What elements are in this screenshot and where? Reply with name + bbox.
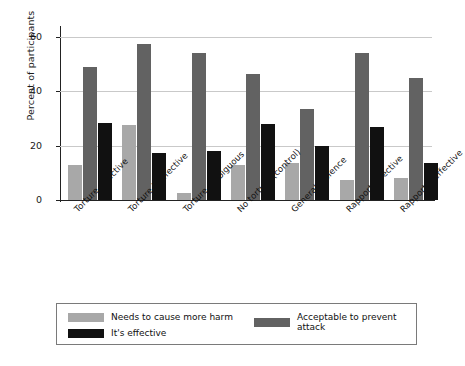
bar-torture-ambiguous-acceptable-to-prevent-attack [192,53,206,200]
y-tick-label-60: 60 [2,32,42,42]
bar-rapport-effective-it-s-effective [370,127,384,200]
y-tick-mark-60 [56,37,60,38]
bar-no-torture-control-needs-to-cause-more-harm [231,165,245,200]
legend-item-its-effective: It's effective [68,328,166,338]
y-tick-label-40: 40 [2,86,42,96]
legend-swatch-icon-series-0 [68,313,104,322]
legend-item-needs-to-cause-more-harm: Needs to cause more harm [68,312,233,322]
bar-group-torture-ambiguous [177,29,221,200]
bar-group-general-violence [285,29,329,200]
bar-torture-ineffective-needs-to-cause-more-harm [122,125,136,200]
bar-torture-effective-needs-to-cause-more-harm [68,165,82,200]
y-tick-mark-40 [56,91,60,92]
bar-group-torture-effective [68,29,112,200]
y-tick-mark-20 [56,146,60,147]
legend-label-series-1: Acceptable to prevent attack [297,312,416,332]
bar-general-violence-acceptable-to-prevent-attack [300,109,314,200]
bar-no-torture-control-acceptable-to-prevent-attack [246,74,260,200]
bar-torture-ambiguous-needs-to-cause-more-harm [177,193,191,200]
bar-rapport-ineffective-it-s-effective [424,163,438,200]
bar-torture-ambiguous-it-s-effective [207,151,221,200]
y-tick-label-20: 20 [2,141,42,151]
legend-label-series-2: It's effective [111,328,166,338]
legend-label-series-0: Needs to cause more harm [111,312,233,322]
bar-torture-effective-acceptable-to-prevent-attack [83,67,97,200]
legend-item-acceptable-to-prevent-attack: Acceptable to prevent attack [254,312,416,332]
y-tick-label-0: 0 [2,195,42,205]
chart-legend: Needs to cause more harm Acceptable to p… [56,303,417,345]
bar-torture-ineffective-acceptable-to-prevent-attack [137,44,151,200]
bar-general-violence-needs-to-cause-more-harm [285,163,299,200]
bar-general-violence-it-s-effective [315,146,329,200]
bar-group-rapport-effective [340,29,384,200]
x-axis-line [57,200,435,201]
bar-torture-ineffective-it-s-effective [152,153,166,201]
y-axis-title: Percent of participants [25,0,36,156]
bar-rapport-ineffective-acceptable-to-prevent-attack [409,78,423,200]
bar-torture-effective-it-s-effective [98,123,112,200]
bar-rapport-effective-acceptable-to-prevent-attack [355,53,369,200]
legend-swatch-icon-series-2 [68,329,104,338]
bar-group-no-torture-control [231,29,275,200]
bar-group-rapport-ineffective [394,29,438,200]
bar-no-torture-control-it-s-effective [261,124,275,200]
plot-area: 0204060 [60,29,432,200]
y-tick-mark-0 [56,200,60,201]
bar-rapport-effective-needs-to-cause-more-harm [340,180,354,200]
bar-group-torture-ineffective [122,29,166,200]
bar-rapport-ineffective-needs-to-cause-more-harm [394,178,408,200]
legend-swatch-icon-series-1 [254,318,290,327]
